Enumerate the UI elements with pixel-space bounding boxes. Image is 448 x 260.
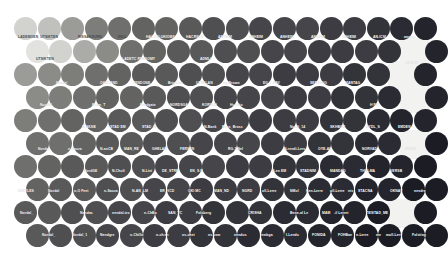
dot-label: ANHEIM	[342, 36, 356, 39]
dot-label: N-AN_LM	[132, 190, 148, 193]
dot-label: anvain	[404, 36, 415, 39]
data-dot[interactable]	[331, 132, 354, 155]
data-dot[interactable]	[414, 155, 437, 178]
data-dot[interactable]	[237, 40, 260, 63]
data-dot[interactable]	[367, 63, 390, 86]
dot-label: ng-Brown	[223, 82, 240, 85]
data-dot[interactable]	[284, 132, 307, 155]
dot-label: n-O Feet	[74, 190, 89, 193]
data-dot[interactable]	[132, 155, 155, 178]
dot-label: ADMLI	[200, 58, 211, 61]
data-dot[interactable]	[425, 132, 448, 155]
dot-label: oll-Lerre	[262, 190, 276, 193]
data-dot[interactable]	[343, 109, 366, 132]
data-dot[interactable]	[367, 155, 390, 178]
dot-label: DELL	[118, 36, 127, 39]
data-dot[interactable]	[331, 40, 354, 63]
data-dot[interactable]	[61, 155, 84, 178]
dot-label: GHELAN	[152, 148, 167, 151]
data-dot[interactable]	[414, 109, 437, 132]
data-dot[interactable]	[190, 132, 213, 155]
data-dot[interactable]	[284, 86, 307, 109]
dot-label: TEISTAD_ME	[366, 212, 388, 215]
data-dot[interactable]	[308, 132, 331, 155]
data-dot[interactable]	[414, 17, 437, 40]
data-dot[interactable]	[331, 86, 354, 109]
data-dot[interactable]	[73, 40, 96, 63]
data-dot[interactable]	[26, 132, 49, 155]
data-dot[interactable]	[296, 155, 319, 178]
data-dot[interactable]	[261, 132, 284, 155]
data-dot[interactable]	[155, 109, 178, 132]
dot-label: UTSIKTEN	[36, 58, 54, 61]
data-dot[interactable]	[38, 201, 61, 224]
data-dot[interactable]	[273, 155, 296, 178]
data-dot[interactable]	[320, 155, 343, 178]
data-dot[interactable]	[14, 63, 37, 86]
data-dot[interactable]	[226, 201, 249, 224]
data-dot[interactable]	[49, 132, 72, 155]
data-dot[interactable]	[214, 40, 237, 63]
data-dot[interactable]	[414, 201, 437, 224]
data-dot[interactable]	[355, 40, 378, 63]
data-dot[interactable]	[226, 155, 249, 178]
data-dot[interactable]	[308, 86, 331, 109]
data-dot[interactable]	[85, 155, 108, 178]
dot-label: ER_VCD	[160, 190, 174, 193]
dot-label: Nordal_	[56, 82, 69, 85]
data-dot[interactable]	[96, 40, 119, 63]
data-dot[interactable]	[61, 109, 84, 132]
data-dot[interactable]	[425, 86, 448, 109]
dot-label: H FU	[370, 104, 378, 107]
data-dot[interactable]	[202, 155, 225, 178]
dot-label: MANDAG	[330, 170, 346, 173]
dot-label: HYDL_S	[366, 126, 380, 129]
data-dot[interactable]	[214, 132, 237, 155]
data-dot[interactable]	[120, 132, 143, 155]
dot-label: CRISHA	[248, 212, 262, 215]
dot-label: LADEMOEN_UTSIKTEN	[18, 36, 58, 39]
data-dot[interactable]	[237, 132, 260, 155]
data-dot[interactable]	[249, 109, 272, 132]
data-dot[interactable]	[179, 109, 202, 132]
data-dot[interactable]	[73, 132, 96, 155]
data-dot[interactable]	[108, 155, 131, 178]
dot-label: n-Sauza	[104, 190, 118, 193]
data-dot[interactable]	[249, 155, 272, 178]
dot-label: n-ChBa	[144, 212, 157, 215]
dot-label: MAM	[322, 212, 330, 215]
data-dot[interactable]	[378, 40, 401, 63]
dot-label: OKNAV	[390, 190, 403, 193]
data-dot[interactable]	[143, 132, 166, 155]
data-dot[interactable]	[261, 40, 284, 63]
data-dot[interactable]	[38, 109, 61, 132]
data-dot[interactable]	[378, 132, 401, 155]
data-dot[interactable]	[355, 132, 378, 155]
data-dot[interactable]	[179, 155, 202, 178]
data-dot[interactable]	[308, 40, 331, 63]
dot-label: Nordgate	[140, 104, 156, 107]
dot-label: n-Lerre	[356, 234, 368, 237]
data-dot[interactable]	[425, 178, 448, 201]
data-dot[interactable]	[390, 155, 413, 178]
data-dot[interactable]	[414, 63, 437, 86]
data-dot[interactable]	[261, 86, 284, 109]
data-dot[interactable]	[14, 109, 37, 132]
data-dot[interactable]	[284, 40, 307, 63]
data-dot[interactable]	[425, 224, 448, 247]
data-dot[interactable]	[38, 155, 61, 178]
dot-label: nendus	[234, 234, 247, 237]
data-dot[interactable]	[343, 155, 366, 178]
dot-label: EMDEN	[398, 126, 411, 129]
data-dot[interactable]	[378, 86, 401, 109]
data-dot[interactable]	[14, 155, 37, 178]
data-dot[interactable]	[167, 132, 190, 155]
data-dot[interactable]	[167, 40, 190, 63]
data-dot[interactable]	[96, 132, 119, 155]
dot-label: SKHBOR	[330, 126, 345, 129]
dot-label: AN-ICM	[405, 62, 418, 65]
data-dot[interactable]	[155, 155, 178, 178]
dot-label: Nendgre	[100, 234, 114, 237]
data-dot[interactable]	[425, 40, 448, 63]
